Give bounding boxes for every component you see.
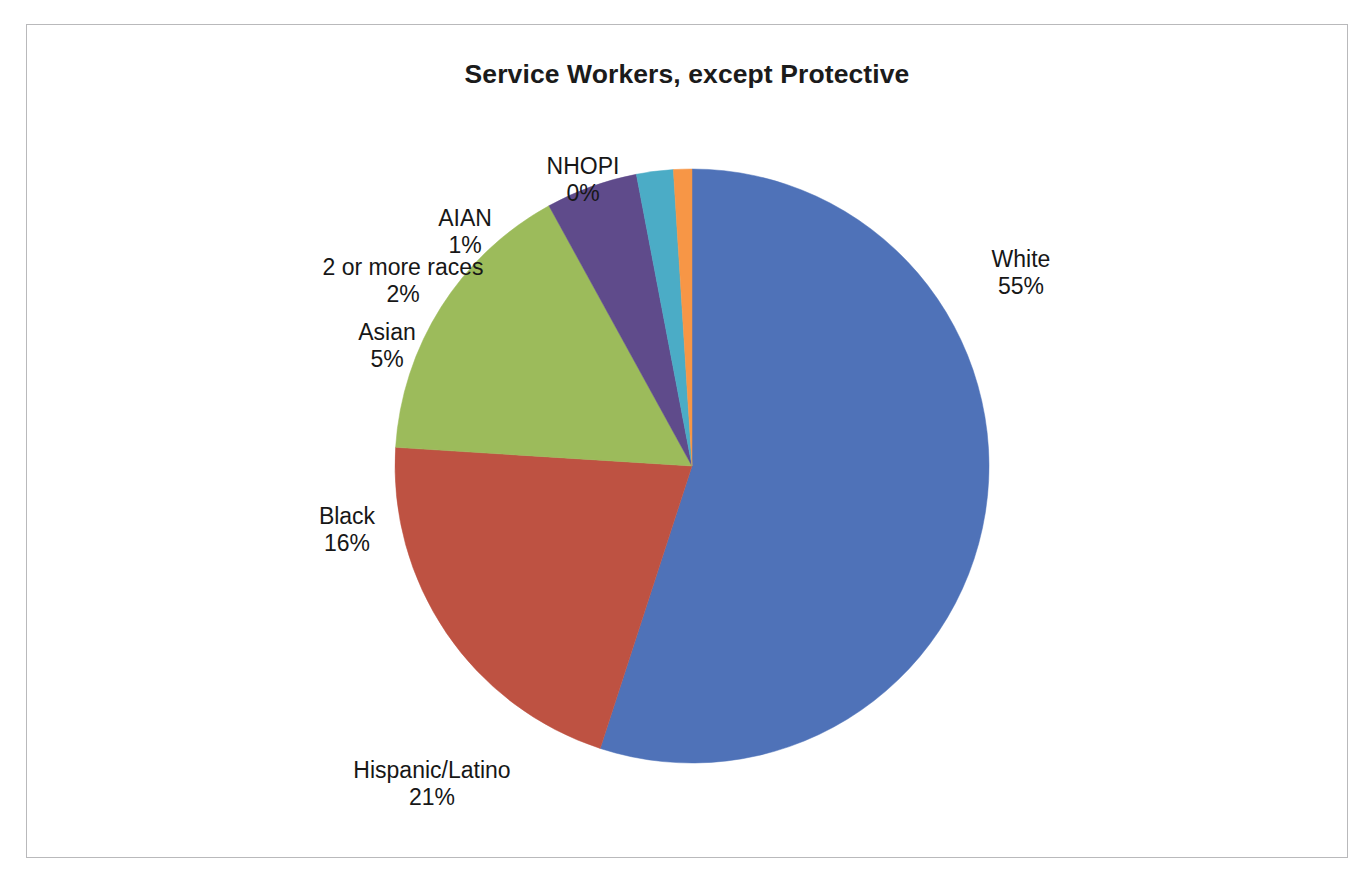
pie-label-nhopi: NHOPI 0%	[513, 153, 653, 207]
pie-label-two-or-more-races-name: 2 or more races	[277, 254, 529, 281]
pie-label-asian-pct: 5%	[319, 346, 455, 373]
pie-chart-area: NHOPI 0% AIAN 1% 2 or more races 2% Asia…	[27, 25, 1347, 857]
chart-frame: Service Workers, except Protective NHOPI…	[26, 24, 1348, 858]
pie-label-asian-name: Asian	[319, 319, 455, 346]
pie-label-nhopi-pct: 0%	[513, 180, 653, 207]
pie-label-hispanic-latino: Hispanic/Latino 21%	[303, 757, 561, 811]
pie-label-aian: AIAN 1%	[395, 205, 535, 259]
pie-label-hispanic-latino-name: Hispanic/Latino	[303, 757, 561, 784]
pie-label-black-pct: 16%	[281, 530, 413, 557]
pie-label-two-or-more-races-pct: 2%	[277, 281, 529, 308]
pie-label-nhopi-name: NHOPI	[513, 153, 653, 180]
pie-label-hispanic-latino-pct: 21%	[303, 784, 561, 811]
pie-label-white-pct: 55%	[957, 273, 1085, 300]
pie-label-asian: Asian 5%	[319, 319, 455, 373]
pie-label-aian-name: AIAN	[395, 205, 535, 232]
pie-label-white: White 55%	[957, 246, 1085, 300]
pie-label-black-name: Black	[281, 503, 413, 530]
pie-label-white-name: White	[957, 246, 1085, 273]
pie-label-black: Black 16%	[281, 503, 413, 557]
pie-label-two-or-more-races: 2 or more races 2%	[277, 254, 529, 308]
pie-chart-svg	[27, 25, 1349, 859]
